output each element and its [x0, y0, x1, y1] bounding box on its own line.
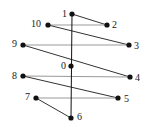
- node-7: [33, 95, 38, 100]
- node-5: [115, 95, 120, 100]
- node-label-9: 9: [12, 39, 17, 49]
- node-3: [126, 42, 131, 47]
- node-2: [104, 22, 109, 27]
- edge-7-6: [36, 98, 71, 118]
- node-label-7: 7: [25, 92, 30, 102]
- node-6: [68, 115, 73, 120]
- node-0: [68, 63, 73, 68]
- node-9: [20, 42, 25, 47]
- edge-9-4: [23, 45, 130, 77]
- node-label-5: 5: [124, 94, 129, 104]
- node-label-10: 10: [31, 19, 41, 29]
- node-label-4: 4: [135, 73, 140, 83]
- node-label-1: 1: [62, 9, 67, 19]
- node-1: [69, 11, 74, 16]
- node-label-0: 0: [61, 61, 66, 71]
- node-10: [45, 22, 50, 27]
- edge-4-8: [23, 76, 130, 77]
- edge-1-2: [72, 14, 107, 25]
- node-label-6: 6: [77, 112, 82, 122]
- node-label-2: 2: [112, 20, 117, 30]
- node-label-8: 8: [12, 71, 17, 81]
- graph-edges-and-nodes: [0, 0, 151, 130]
- node-label-3: 3: [134, 41, 139, 51]
- edge-8-5: [23, 76, 118, 98]
- graph-diagram: 012345678910: [0, 0, 151, 130]
- node-4: [127, 74, 132, 79]
- node-8: [20, 73, 25, 78]
